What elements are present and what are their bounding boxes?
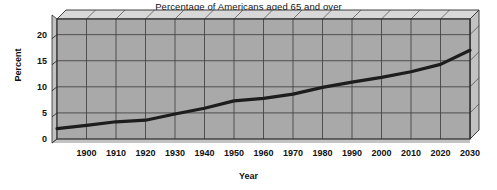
plot-area [0, 0, 497, 190]
y-tick-label: 5 [21, 108, 47, 118]
y-tick-label: 10 [21, 82, 47, 92]
y-tick-label: 20 [21, 30, 47, 40]
chart-container: Percentage of Americans aged 65 and over… [0, 0, 497, 190]
x-tick-label: 2030 [453, 148, 487, 158]
y-tick-label: 15 [21, 56, 47, 66]
y-tick-label: 0 [21, 134, 47, 144]
